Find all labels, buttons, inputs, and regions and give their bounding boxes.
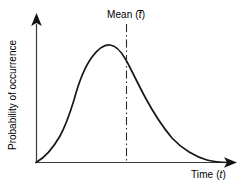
mean-annotation-label: Mean (t) — [107, 10, 145, 20]
chart-figure: Probability of occurrence Time (t) Mean … — [0, 0, 248, 190]
mean-label-paren: ) — [142, 9, 145, 20]
x-axis-label-text: Time ( — [191, 169, 220, 180]
x-axis-label: Time (t) — [191, 170, 226, 180]
y-axis-label-wrapper: Probability of occurrence — [0, 0, 26, 190]
mean-label-text: Mean ( — [107, 9, 139, 20]
x-axis-label-paren: ) — [222, 169, 225, 180]
distribution-curve — [36, 45, 228, 163]
plot-canvas — [0, 0, 248, 190]
y-axis-label: Probability of occurrence — [8, 40, 18, 150]
mean-label-variable: t — [139, 10, 142, 20]
